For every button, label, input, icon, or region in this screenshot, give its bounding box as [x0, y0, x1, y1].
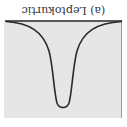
figure-caption: (a) Leptokurtic [0, 3, 127, 17]
figure-panel-rotated: (a) Leptokurtic [0, 0, 127, 127]
density-plot [0, 0, 127, 127]
density-curve [6, 22, 122, 108]
